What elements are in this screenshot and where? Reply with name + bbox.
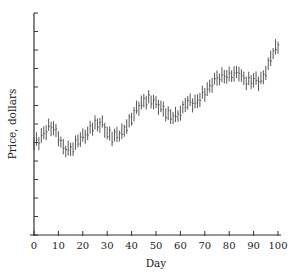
price-bar [239, 67, 240, 82]
price-bar [197, 94, 198, 108]
price-bar [234, 66, 235, 81]
price-bar [107, 127, 108, 140]
price-bar [195, 95, 196, 109]
price-bar [56, 124, 57, 137]
price-bar [132, 113, 133, 126]
x-tick-label: 100 [268, 240, 287, 251]
price-bar [268, 57, 269, 69]
price-bar [44, 126, 45, 139]
price-bar [244, 72, 245, 86]
price-bar [168, 106, 169, 120]
price-bar [105, 123, 106, 138]
price-bar [222, 67, 223, 82]
price-bar [83, 128, 84, 141]
price-bar [149, 90, 150, 103]
price-bar [200, 93, 201, 107]
price-bar [176, 107, 177, 122]
price-bar [229, 67, 230, 82]
price-bar [173, 112, 174, 124]
price-bar [237, 66, 238, 78]
price-bar [249, 72, 250, 85]
price-bar [78, 135, 79, 148]
x-tick-label: 0 [31, 240, 37, 251]
price-bar [207, 82, 208, 96]
price-bar [119, 131, 120, 142]
price-bar [212, 78, 213, 93]
price-bar [210, 80, 211, 93]
price-bar [144, 94, 145, 108]
x-tick-labels: 0102030405060708090100 [31, 240, 288, 251]
price-bar [36, 132, 37, 146]
y-axis-title: Price, dollars [6, 89, 18, 160]
price-bar [241, 69, 242, 82]
x-tick-label: 30 [101, 240, 114, 251]
price-bar [163, 101, 164, 116]
price-bar [224, 70, 225, 84]
price-bar [139, 102, 140, 116]
price-bar [183, 101, 184, 113]
x-tick-label: 40 [125, 240, 138, 251]
price-bar [232, 70, 233, 82]
price-bar [85, 130, 86, 144]
price-bar [112, 132, 113, 146]
x-tick-label: 20 [76, 240, 89, 251]
price-bar [61, 137, 62, 148]
price-bar [146, 96, 147, 110]
price-bar [202, 86, 203, 99]
price-bar [254, 73, 255, 87]
price-bars [34, 39, 279, 157]
price-bar [51, 122, 52, 136]
price-bar [141, 96, 142, 110]
x-tick-label: 60 [174, 240, 187, 251]
price-bar [190, 93, 191, 106]
price-bar [134, 107, 135, 121]
price-bar [58, 131, 59, 146]
price-bar [278, 42, 279, 54]
price-bar [261, 72, 262, 85]
price-bar [115, 129, 116, 142]
price-bar [73, 142, 74, 156]
price-bar [39, 137, 40, 150]
price-bar [217, 70, 218, 85]
price-bar [46, 125, 47, 140]
price-bar [102, 115, 103, 127]
price-bar [124, 125, 125, 137]
y-axis [34, 13, 38, 236]
price-bar [266, 66, 267, 80]
price-bar [256, 71, 257, 84]
price-bar [188, 96, 189, 110]
price-bar [75, 135, 76, 149]
price-bar [171, 109, 172, 124]
price-bar [80, 132, 81, 147]
price-bar [63, 139, 64, 155]
price-bar [251, 75, 252, 89]
price-bar [97, 119, 98, 132]
price-bar [156, 96, 157, 108]
price-bar [219, 74, 220, 86]
price-bar [263, 70, 264, 84]
price-bar [122, 123, 123, 138]
x-axis [30, 231, 281, 236]
price-bar [66, 146, 67, 158]
price-bar [185, 98, 186, 112]
price-bar [271, 51, 272, 66]
price-bar [129, 114, 130, 128]
x-tick-label: 80 [223, 240, 236, 251]
price-bar [93, 123, 94, 136]
price-bar [90, 121, 91, 134]
price-bar [161, 101, 162, 113]
price-bar [49, 119, 50, 131]
price-bar [258, 77, 259, 92]
x-tick-label: 50 [150, 240, 163, 251]
price-bar [215, 73, 216, 85]
price-bar [227, 70, 228, 84]
price-bar [68, 141, 69, 156]
price-bar [71, 143, 72, 156]
price-bar [273, 48, 274, 59]
price-bar [180, 106, 181, 121]
x-tick-label: 10 [52, 240, 65, 251]
price-bar [110, 126, 111, 140]
x-axis-title: Day [146, 257, 167, 269]
price-bar [276, 39, 277, 54]
x-tick-label: 70 [198, 240, 211, 251]
